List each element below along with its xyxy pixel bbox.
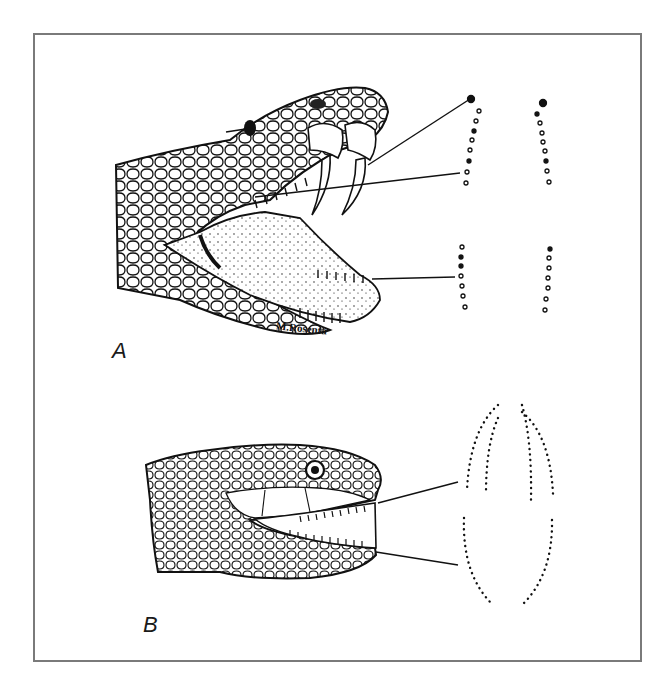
panel-a-dentition-lower-left bbox=[459, 245, 467, 309]
panel-label-a: A bbox=[112, 338, 127, 364]
panel-b-dentition-lower bbox=[464, 518, 552, 605]
panel-a-dentition-upper-left bbox=[464, 96, 481, 186]
panel-b-leader-lines bbox=[376, 482, 458, 565]
snake-dentition-illustration bbox=[0, 0, 669, 696]
panel-a-dentition-upper-right bbox=[535, 100, 551, 185]
panel-a-dentition-lower-right bbox=[543, 247, 552, 312]
panel-b-dentition-upper bbox=[467, 405, 553, 500]
panel-label-b: B bbox=[143, 612, 158, 638]
panel-a-viper-head bbox=[116, 88, 470, 335]
panel-b-snake-head bbox=[146, 445, 458, 579]
viper-pit bbox=[310, 99, 326, 109]
figure-stage: M.Rosenta A B bbox=[0, 0, 669, 696]
